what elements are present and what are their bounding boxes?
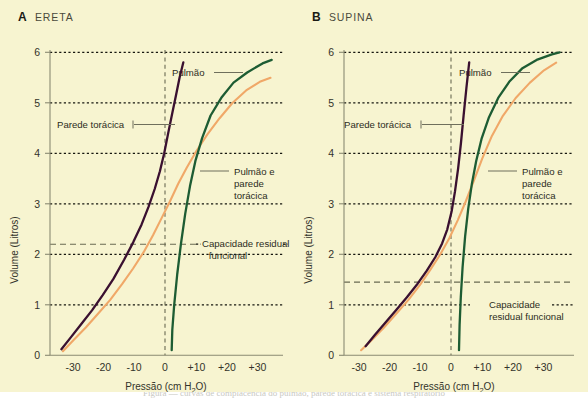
curve-lung-a xyxy=(172,60,272,350)
combined-label-a-l1: Pulmão e xyxy=(234,166,275,177)
x-tick-labels-a: -30 -20 -10 0 +10 +20 +30 xyxy=(65,361,266,373)
y-tick-a-2: 2 xyxy=(34,248,40,260)
figure-container: A ERETA xyxy=(0,0,588,407)
x-tick-b-4: +10 xyxy=(474,361,492,373)
x-tick-a-1: -20 xyxy=(96,361,111,373)
combined-label-b-l2: parede xyxy=(522,178,552,189)
panel-ereta: A ERETA xyxy=(0,0,294,392)
panel-b-heading: B SUPINA xyxy=(312,10,373,24)
x-tick-a-3: 0 xyxy=(162,361,168,373)
frc-label-b-l2: residual funcional xyxy=(489,311,564,322)
y-tick-a-3: 3 xyxy=(34,198,40,210)
combined-label-a-l3: torácica xyxy=(234,190,268,201)
y-tick-b-2: 2 xyxy=(328,248,334,260)
chart-b-svg: -30 -20 -10 0 +10 +20 +30 0 1 2 3 4 5 6 … xyxy=(294,0,588,392)
x-tick-labels-b: -30 -20 -10 0 +10 +20 +30 xyxy=(351,361,552,373)
x-tick-a-2: -10 xyxy=(126,361,141,373)
x-tick-b-0: -30 xyxy=(351,361,366,373)
x-tick-b-5: +20 xyxy=(504,361,522,373)
panel-a-title: ERETA xyxy=(35,11,74,23)
x-tick-b-2: -10 xyxy=(412,361,427,373)
y-tick-b-3: 3 xyxy=(328,198,334,210)
panel-a-heading: A ERETA xyxy=(18,10,74,24)
y-tick-labels-a: 0 1 2 3 4 5 6 xyxy=(34,46,40,361)
caption-strip: Figura — curvas de complacência do pulmã… xyxy=(0,392,588,407)
x-axis-title-b: Pressão (cm H2O) xyxy=(413,381,494,392)
y-tick-labels-b: 0 1 2 3 4 5 6 xyxy=(328,46,334,361)
y-tick-b-0: 0 xyxy=(328,349,334,361)
panel-b-letter: B xyxy=(312,10,321,24)
y-axis-title-b: Volume (Litros) xyxy=(303,216,314,283)
y-tick-a-1: 1 xyxy=(34,299,40,311)
y-tick-b-5: 5 xyxy=(328,97,334,109)
y-tick-a-5: 5 xyxy=(34,97,40,109)
y-tick-a-6: 6 xyxy=(34,46,40,58)
chest-wall-label-a: Parede torácica xyxy=(57,119,125,130)
frc-label-a-l1: Capacidade residual xyxy=(202,238,289,249)
x-tick-a-5: +20 xyxy=(218,361,236,373)
x-tick-a-0: -30 xyxy=(65,361,80,373)
x-tick-a-6: +30 xyxy=(249,361,267,373)
x-tick-b-1: -20 xyxy=(382,361,397,373)
x-tick-a-4: +10 xyxy=(188,361,206,373)
frc-label-a-l2: funcional xyxy=(209,250,247,261)
combined-label-b-l1: Pulmão e xyxy=(522,166,563,177)
combined-label-b-l3: torácica xyxy=(522,190,556,201)
x-axis-title-a: Pressão (cm H2O) xyxy=(125,381,206,392)
lung-label-a: Pulmão xyxy=(172,67,205,78)
y-tick-b-1: 1 xyxy=(328,299,334,311)
y-tick-b-6: 6 xyxy=(328,46,334,58)
chest-wall-label-b: Parede torácica xyxy=(344,119,412,130)
chart-a-svg: -30 -20 -10 0 +10 +20 +30 0 1 2 3 4 5 6 … xyxy=(0,0,294,392)
combined-label-a-l2: parede xyxy=(234,178,264,189)
y-tick-a-4: 4 xyxy=(34,147,40,159)
y-tick-b-4: 4 xyxy=(328,147,334,159)
y-tick-a-0: 0 xyxy=(34,349,40,361)
panel-b-title: SUPINA xyxy=(329,11,374,23)
panel-a-letter: A xyxy=(18,10,27,24)
frc-label-b-l1: Capacidade xyxy=(489,299,540,310)
figure-caption: Figura — curvas de complacência do pulmã… xyxy=(0,392,588,398)
x-tick-b-3: 0 xyxy=(448,361,454,373)
panel-supina: B SUPINA xyxy=(294,0,588,392)
y-axis-title-a: Volume (Litros) xyxy=(9,216,20,283)
lung-label-b: Pulmão xyxy=(459,67,492,78)
axes-a xyxy=(45,50,283,355)
x-tick-b-6: +30 xyxy=(535,361,553,373)
